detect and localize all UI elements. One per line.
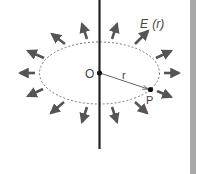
field-arrow: [28, 89, 43, 96]
origin-point: [97, 70, 102, 75]
page-edge-bar: [190, 0, 196, 174]
field-arrow: [156, 51, 171, 58]
field-arrow: [82, 107, 87, 122]
field-arrow: [157, 91, 171, 97]
field-arrow: [82, 24, 87, 39]
field-label-arg: (r): [152, 17, 164, 31]
field-arrow: [112, 24, 117, 39]
field-arrow: [112, 107, 117, 122]
field-arrow: [52, 34, 65, 44]
field-label-main: E: [140, 17, 149, 31]
radius-label: r: [122, 69, 126, 81]
field-arrow: [135, 31, 148, 44]
point-p: [148, 87, 153, 92]
origin-label: O: [85, 67, 94, 81]
electric-field-diagram: O P r E (r): [0, 0, 197, 174]
point-label: P: [146, 94, 153, 106]
field-label: E (r): [140, 17, 164, 31]
field-arrow: [28, 51, 44, 58]
field-arrow: [51, 102, 64, 113]
